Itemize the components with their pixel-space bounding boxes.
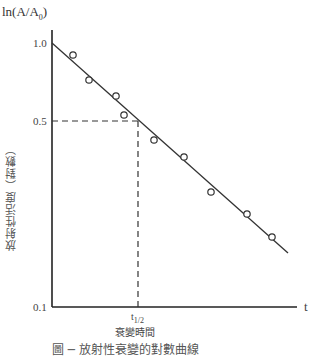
fit-line bbox=[52, 43, 288, 253]
y-axis-title: ln(A/A0) bbox=[2, 4, 47, 22]
half-life-label: t1/2 bbox=[131, 311, 144, 325]
data-points bbox=[70, 52, 275, 240]
y-tick-1.0: 1.0 bbox=[33, 37, 47, 49]
x-axis-label: t bbox=[304, 299, 308, 315]
x-axis-title: 衰變時間 bbox=[115, 324, 155, 339]
y-axis-vertical-label: 放射性活度（對數） bbox=[4, 143, 20, 251]
y-tick-0.1: 0.1 bbox=[33, 301, 47, 313]
y-tick-0.5: 0.5 bbox=[33, 115, 47, 127]
figure-caption: 圖 ─ 放射性衰變的對數曲線 bbox=[52, 340, 199, 357]
